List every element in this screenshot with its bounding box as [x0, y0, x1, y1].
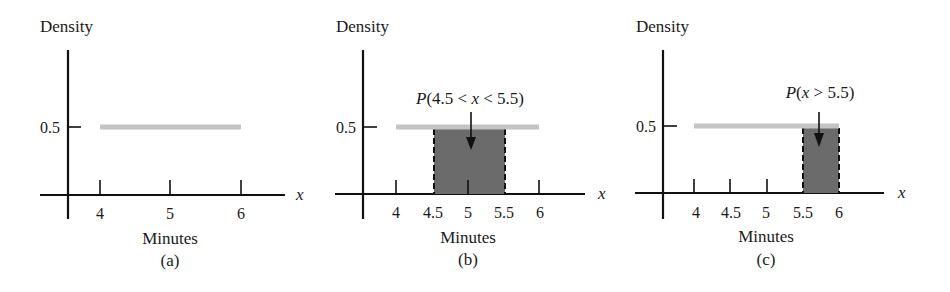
x-axis-symbol: x — [295, 185, 304, 204]
x-tick-label: 4.5 — [721, 204, 741, 221]
panel-b: Density x 0.5 4 4.5 5 5.5 6 Minutes (b) … — [335, 17, 606, 269]
x-axis-label: Minutes — [440, 228, 496, 247]
x-tick-label: 4 — [96, 205, 104, 222]
x-axis-symbol: x — [597, 184, 606, 203]
y-tick-label: 0.5 — [40, 119, 60, 136]
x-tick-label: 5 — [166, 205, 174, 222]
uniform-density-figure: Density x 0.5 4 5 6 Minutes (a) Density … — [0, 0, 950, 292]
x-tick-label: 4 — [692, 204, 700, 221]
x-tick-label: 6 — [835, 204, 843, 221]
panel-a: Density x 0.5 4 5 6 Minutes (a) — [40, 17, 304, 270]
y-tick-label: 0.5 — [636, 118, 656, 135]
y-axis-label: Density — [636, 17, 689, 36]
x-tick-label: 4.5 — [423, 204, 443, 221]
x-axis-symbol: x — [897, 183, 906, 202]
x-tick-label: 6 — [536, 204, 544, 221]
y-axis-label: Density — [336, 17, 389, 36]
x-tick-label: 5.5 — [793, 204, 813, 221]
x-tick-label: 5 — [464, 204, 472, 221]
y-axis-label: Density — [40, 17, 93, 36]
x-tick-label: 6 — [237, 205, 245, 222]
y-tick-label: 0.5 — [336, 119, 356, 136]
x-tick-label: 4 — [392, 204, 400, 221]
x-tick-label: 5.5 — [494, 204, 514, 221]
x-tick-label: 5 — [762, 204, 770, 221]
x-axis-label: Minutes — [738, 227, 794, 246]
panel-caption: (c) — [757, 250, 776, 269]
panel-caption: (a) — [161, 251, 180, 270]
panel-caption: (b) — [458, 250, 478, 269]
x-axis-label: Minutes — [142, 229, 198, 248]
probability-annotation: P(x > 5.5) — [785, 83, 855, 102]
panel-c: Density x 0.5 4 4.5 5 5.5 6 Minutes (c) … — [635, 17, 906, 269]
probability-annotation: P(4.5 < x < 5.5) — [415, 89, 524, 108]
